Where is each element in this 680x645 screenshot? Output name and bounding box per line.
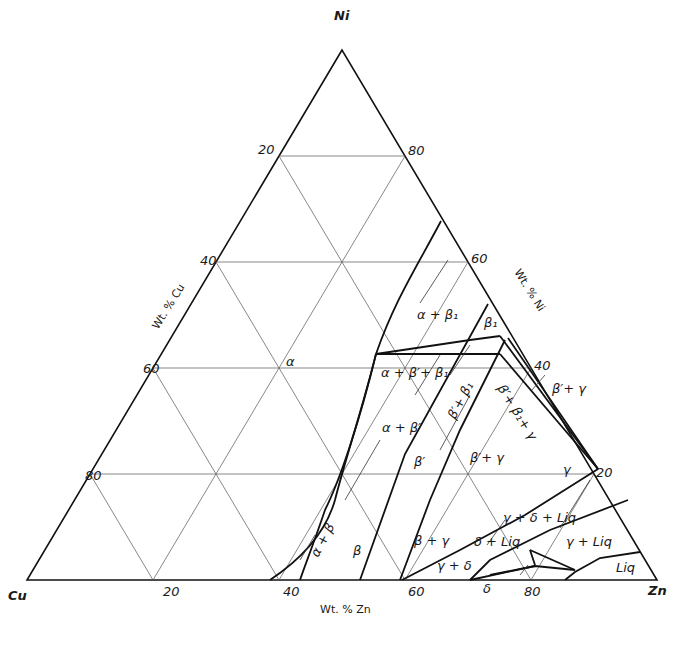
- phase-gamma: γ: [563, 462, 572, 477]
- cu-tick-60: 60: [143, 361, 160, 376]
- vertex-zn: Zn: [647, 583, 667, 598]
- phase-betap: β′: [413, 454, 425, 469]
- ni-axis-title: Wt. % Ni: [511, 267, 547, 314]
- zn-axis-title: Wt. % Zn: [320, 603, 371, 616]
- zn-tick-80: 80: [524, 584, 541, 599]
- phase-delta-liq: δ + Liq: [474, 534, 520, 549]
- cu-tick-40: 40: [200, 253, 217, 268]
- ternary-phase-diagram: Ni Cu Zn 20 40 60 80 Wt. % Cu 80 60 40 2…: [0, 0, 680, 645]
- vertex-cu: Cu: [8, 588, 27, 603]
- phase-gamma-delta: γ + δ: [437, 558, 472, 573]
- cu-tick-80: 80: [85, 468, 102, 483]
- ni-tick-20: 20: [596, 465, 613, 480]
- phase-betap-beta1: β′+ β₁: [444, 379, 476, 422]
- phase-beta-gamma: β + γ: [413, 533, 450, 548]
- vertex-ni: Ni: [334, 8, 350, 23]
- phase-betap-gamma-right: β′+ γ: [551, 381, 587, 396]
- zn-tick-60: 60: [408, 584, 425, 599]
- phase-alpha-betap-beta1: α + β′+ β₁: [381, 365, 449, 380]
- phase-beta1: β₁: [483, 315, 498, 330]
- phase-delta: δ: [483, 581, 491, 596]
- cu-axis-title: Wt. % Cu: [150, 282, 188, 332]
- zn-tick-40: 40: [283, 584, 300, 599]
- triangle-frame: [27, 50, 657, 580]
- phase-gamma-delta-liq: γ + δ + Liq: [503, 510, 576, 525]
- zn-tick-20: 20: [163, 584, 180, 599]
- phase-alpha: α: [286, 354, 295, 369]
- phase-beta: β: [352, 543, 361, 558]
- ni-tick-40: 40: [534, 358, 551, 373]
- ni-tick-80: 80: [408, 143, 425, 158]
- cu-tick-20: 20: [258, 142, 275, 157]
- phase-liq: Liq: [616, 560, 635, 575]
- phase-gamma-liq: γ + Liq: [566, 534, 612, 549]
- phase-alpha-betap: α + β′: [382, 420, 421, 435]
- phase-betap-gamma: β′+ γ: [469, 450, 505, 465]
- phase-alpha-beta1: α + β₁: [417, 307, 458, 322]
- ni-tick-60: 60: [471, 251, 488, 266]
